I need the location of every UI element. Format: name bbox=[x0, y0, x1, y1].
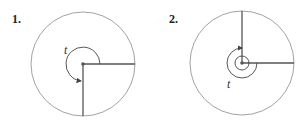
figure-2: t bbox=[190, 11, 294, 115]
center-point-2 bbox=[240, 61, 244, 65]
diagram-canvas: t t bbox=[0, 0, 306, 126]
angle-label-2: t bbox=[227, 77, 231, 91]
figure-1: t bbox=[31, 12, 135, 116]
center-point-1 bbox=[81, 62, 85, 66]
angle-label-1: t bbox=[64, 43, 68, 57]
